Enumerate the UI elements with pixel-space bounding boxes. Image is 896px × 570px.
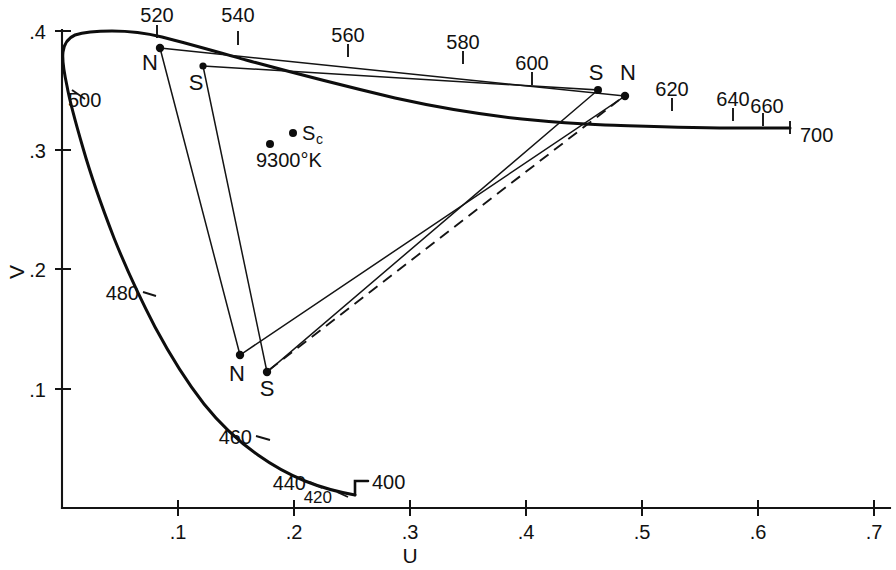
- x-tick-label-0.4: .4: [518, 521, 535, 543]
- vertex-labels: N S S N N S: [142, 50, 636, 401]
- white-point-sc-subscript: c: [316, 131, 323, 147]
- wavelength-labels: 520 540 560 580 600 620 640 660 700 500 …: [68, 4, 833, 507]
- vertex-label-n-red: N: [620, 60, 636, 85]
- x-tick-label-0.2: .2: [286, 521, 303, 543]
- wl-label-660: 660: [750, 95, 783, 117]
- wl-label-420: 420: [304, 488, 332, 507]
- wl-tick-480: [143, 292, 156, 296]
- wl-label-480: 480: [106, 282, 139, 304]
- white-point-sc-dot: [289, 129, 297, 137]
- spectral-locus-curve: [63, 31, 790, 495]
- x-tick-label-0.1: .1: [170, 521, 187, 543]
- x-tick-label-0.6: .6: [750, 521, 767, 543]
- vertex-label-n-green: N: [142, 50, 158, 75]
- wl-label-400: 400: [372, 471, 405, 493]
- wl-label-600: 600: [515, 52, 548, 74]
- wavelength-400-marker: [355, 481, 368, 495]
- chromaticity-diagram-figure: .4 .3 .2 .1 .1 .2 .3 .4 .5 .6 .7 U V: [0, 0, 896, 570]
- chromaticity-chart-svg: .4 .3 .2 .1 .1 .2 .3 .4 .5 .6 .7 U V: [0, 0, 896, 570]
- vertex-label-s-red: S: [589, 60, 604, 85]
- wl-label-440: 440: [273, 472, 306, 494]
- axis-names: U V: [5, 265, 418, 567]
- x-tick-label-0.3: .3: [402, 521, 419, 543]
- x-tick-label-0.7: .7: [866, 521, 883, 543]
- wl-tick-460: [256, 436, 270, 440]
- gamut-n-vertex-blue-dot: [236, 351, 244, 359]
- wl-label-640: 640: [716, 88, 749, 110]
- wl-label-540: 540: [221, 4, 254, 26]
- y-axis-label: V: [5, 265, 28, 279]
- y-tick-label-0.1: .1: [29, 379, 46, 401]
- y-tick-label-0.4: .4: [29, 21, 46, 43]
- y-tick-label-0.2: .2: [29, 259, 46, 281]
- gamut-s-vertex-green-dot: [199, 62, 206, 69]
- white-point-sc-label: S: [302, 122, 315, 144]
- wl-label-700: 700: [800, 124, 833, 146]
- wl-label-520: 520: [140, 4, 173, 26]
- gamut-n-outline: [160, 48, 625, 355]
- vertex-label-s-blue: S: [260, 376, 275, 401]
- white-point-9300k-dot: [266, 140, 274, 148]
- gamut-s-outline: [203, 66, 598, 372]
- x-axis-label: U: [402, 544, 417, 567]
- gamut-s-vertex-red-dot: [594, 86, 602, 94]
- wl-label-460: 460: [219, 426, 252, 448]
- y-tick-label-0.3: .3: [29, 140, 46, 162]
- vertex-label-n-blue: N: [229, 361, 245, 386]
- wl-label-500: 500: [68, 89, 101, 111]
- x-tick-label-0.5: .5: [634, 521, 651, 543]
- wl-label-580: 580: [446, 31, 479, 53]
- gamut-n-vertex-red-dot: [621, 92, 629, 100]
- white-point-9300k-label: 9300°K: [256, 149, 322, 171]
- wl-label-560: 560: [331, 24, 364, 46]
- gamut-triangle-n: [156, 44, 629, 359]
- vertex-label-s-green: S: [189, 70, 204, 95]
- white-points-group: S c 9300°K: [256, 122, 323, 171]
- gamut-triangle-s: [199, 62, 602, 376]
- wl-label-620: 620: [655, 78, 688, 100]
